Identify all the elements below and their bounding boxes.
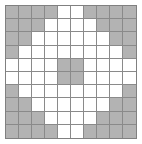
grid-cell[interactable] [32,19,45,32]
grid-cell[interactable] [19,19,32,32]
grid-cell[interactable] [71,46,84,59]
grid-cell[interactable] [45,46,58,59]
grid-cell[interactable] [110,6,123,19]
grid-cell[interactable] [84,19,97,32]
grid-cell[interactable] [71,6,84,19]
grid-cell[interactable] [6,46,19,59]
grid-cell[interactable] [45,112,58,125]
grid-cell[interactable] [71,98,84,111]
grid-cell[interactable] [6,59,19,72]
grid-cell[interactable] [58,59,71,72]
grid-cell[interactable] [71,85,84,98]
grid-cell[interactable] [19,125,32,138]
grid-cell[interactable] [6,72,19,85]
grid-cell[interactable] [97,98,110,111]
grid-cell[interactable] [110,125,123,138]
grid-cell[interactable] [84,6,97,19]
grid-cell[interactable] [58,6,71,19]
grid-cell[interactable] [45,98,58,111]
grid-cell[interactable] [97,59,110,72]
grid-cell[interactable] [32,112,45,125]
grid-cell[interactable] [6,6,19,19]
grid-cell[interactable] [58,125,71,138]
grid-cell[interactable] [110,59,123,72]
grid-cell[interactable] [32,59,45,72]
grid-cell[interactable] [123,6,136,19]
grid-cell[interactable] [97,32,110,45]
grid-cell[interactable] [110,32,123,45]
grid-cell[interactable] [84,46,97,59]
grid-cell[interactable] [58,46,71,59]
grid-cell[interactable] [97,19,110,32]
grid-cell[interactable] [71,19,84,32]
grid-cell[interactable] [45,85,58,98]
grid-cell[interactable] [123,85,136,98]
grid-cell[interactable] [110,19,123,32]
grid-cell[interactable] [6,125,19,138]
grid-cell[interactable] [123,32,136,45]
cell-grid[interactable] [6,6,136,138]
grid-cell[interactable] [6,19,19,32]
grid-cell[interactable] [110,85,123,98]
grid-cell[interactable] [84,98,97,111]
grid-cell[interactable] [110,112,123,125]
grid-cell[interactable] [58,98,71,111]
grid-cell[interactable] [58,72,71,85]
grid-cell[interactable] [45,19,58,32]
grid-cell[interactable] [32,72,45,85]
grid-cell[interactable] [123,46,136,59]
grid-cell[interactable] [84,72,97,85]
grid-cell[interactable] [58,19,71,32]
grid-cell[interactable] [58,32,71,45]
grid-cell[interactable] [19,32,32,45]
grid-cell[interactable] [6,85,19,98]
grid-cell[interactable] [84,59,97,72]
grid-cell[interactable] [97,6,110,19]
grid-cell[interactable] [97,46,110,59]
grid-cell[interactable] [58,112,71,125]
grid-cell[interactable] [84,112,97,125]
grid-cell[interactable] [97,125,110,138]
grid-cell[interactable] [19,72,32,85]
grid-cell[interactable] [32,85,45,98]
grid-cell[interactable] [6,98,19,111]
grid-cell[interactable] [6,112,19,125]
grid-cell[interactable] [19,98,32,111]
grid-cell[interactable] [32,46,45,59]
grid-cell[interactable] [84,85,97,98]
grid-cell[interactable] [123,112,136,125]
grid-cell[interactable] [110,72,123,85]
grid-cell[interactable] [97,112,110,125]
grid-cell[interactable] [32,98,45,111]
grid-cell[interactable] [71,125,84,138]
grid-cell[interactable] [71,112,84,125]
grid-cell[interactable] [110,98,123,111]
grid-cell[interactable] [19,112,32,125]
grid-cell[interactable] [123,19,136,32]
grid-cell[interactable] [19,59,32,72]
grid-cell[interactable] [97,85,110,98]
grid-cell[interactable] [6,32,19,45]
grid-cell[interactable] [71,72,84,85]
grid-cell[interactable] [32,125,45,138]
grid-cell[interactable] [123,72,136,85]
grid-cell[interactable] [19,85,32,98]
grid-cell[interactable] [45,72,58,85]
grid-cell[interactable] [32,32,45,45]
grid-cell[interactable] [45,125,58,138]
grid-cell[interactable] [19,6,32,19]
grid-cell[interactable] [45,6,58,19]
grid-cell[interactable] [97,72,110,85]
grid-cell[interactable] [123,125,136,138]
grid-cell[interactable] [19,46,32,59]
grid-cell[interactable] [84,32,97,45]
grid-cell[interactable] [84,125,97,138]
grid-cell[interactable] [71,59,84,72]
grid-cell[interactable] [45,32,58,45]
grid-cell[interactable] [45,59,58,72]
grid-cell[interactable] [110,46,123,59]
grid-cell[interactable] [123,59,136,72]
grid-cell[interactable] [71,32,84,45]
grid-cell[interactable] [123,98,136,111]
grid-cell[interactable] [58,85,71,98]
